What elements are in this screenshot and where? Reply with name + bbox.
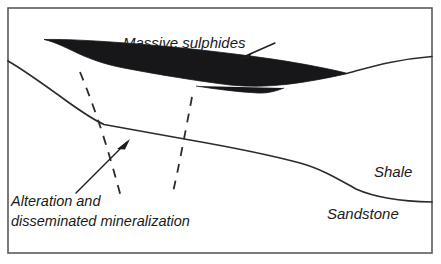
geological-cross-section-figure: Massive sulphides Shale Sandstone Altera…	[0, 0, 441, 264]
label-alteration-line-1: Alteration and	[10, 193, 101, 209]
cross-section-canvas: Massive sulphides Shale Sandstone Altera…	[0, 0, 441, 264]
label-sandstone: Sandstone	[327, 205, 399, 222]
label-shale: Shale	[374, 163, 412, 180]
label-massive-sulphides: Massive sulphides	[123, 34, 246, 51]
label-alteration-line-2: disseminated mineralization	[11, 213, 190, 229]
